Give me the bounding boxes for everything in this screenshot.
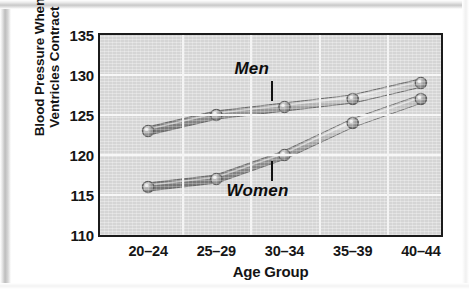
leader-line-women [271,161,273,181]
page-edge-shadow-left [0,0,11,289]
data-point-marker [143,125,154,136]
x-tick-label-1: 25–29 [197,243,236,259]
data-point-marker [279,101,290,112]
x-axis-tick-labels: 20–2425–2930–3435–3940–44 [98,243,443,263]
gridline-y-120 [100,154,441,156]
page-edge-shadow-right [462,0,469,289]
y-axis-tick-labels: 110115120125130135 [56,33,94,237]
series-label-men: Men [235,59,270,79]
series-label-women: Women [227,181,289,201]
x-tick-label-4: 40–44 [401,243,440,259]
x-tick-label-3: 35–39 [333,243,372,259]
page-edge-shadow-bottom [0,283,469,289]
data-point-highlight [145,184,148,187]
data-point-marker [211,173,222,184]
x-axis-title: Age Group [98,263,443,280]
data-point-marker [143,181,154,192]
gridline-y-125 [100,114,441,116]
data-point-marker [415,93,426,104]
y-axis-title-line-1: Blood Pressure When [32,0,47,162]
y-tick-label-120: 120 [60,148,94,163]
data-point-marker [415,77,426,88]
chart-figure: Blood Pressure When Ventricles Contract … [0,0,469,289]
page-edge-shadow-top [0,0,469,9]
x-tick-label-2: 30–34 [265,243,304,259]
y-tick-label-110: 110 [60,228,94,243]
gridline-y-130 [100,74,441,76]
y-tick-label-135: 135 [60,28,94,43]
gridline-x-3 [319,35,321,235]
data-point-highlight [350,96,353,99]
data-point-highlight [281,104,284,107]
data-point-marker [347,93,358,104]
data-point-marker [347,117,358,128]
series-men [143,77,427,136]
y-tick-label-115: 115 [60,188,94,203]
series-layer [100,35,441,235]
plot-area: MenWomen [98,33,443,237]
data-point-highlight [213,176,216,179]
data-point-highlight [418,80,421,83]
gridline-x-4 [387,35,389,235]
data-point-highlight [418,96,421,99]
y-tick-label-130: 130 [60,68,94,83]
data-point-highlight [145,128,148,131]
data-point-highlight [350,120,353,123]
gridline-x-1 [182,35,184,235]
y-tick-label-125: 125 [60,108,94,123]
leader-line-men [271,81,273,101]
x-tick-label-0: 20–24 [128,243,167,259]
